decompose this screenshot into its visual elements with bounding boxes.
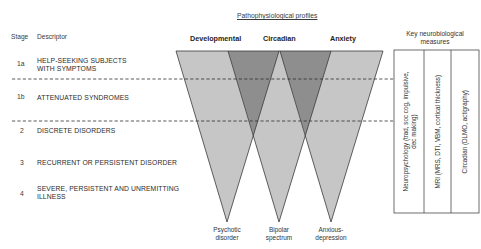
profile-developmental: Developmental	[190, 34, 241, 43]
stage-4-descriptor: SEVERE, PERSISTENT AND UNREMITTING ILLNE…	[37, 185, 179, 201]
outcome-bipolar-spectrum: Bipolar spectrum	[254, 226, 304, 242]
measure-mri: MRI (MRS, DTI, VBM, cortical thickness)	[424, 50, 451, 213]
measures-title: Key neurobiological measures	[389, 30, 481, 46]
stage-3-descriptor: RECURRENT OR PERSISTENT DISORDER	[37, 159, 177, 167]
profiles-title: Pathophysiological profiles	[237, 12, 317, 19]
profile-anxiety: Anxiety	[330, 34, 356, 43]
stage-1a-descriptor: HELP-SEEKING SUBJECTS WITH SYMPTOMS	[37, 57, 127, 73]
outcome-anxious-depression: Anxious- depression	[306, 226, 356, 242]
stage-2-descriptor: DISCRETE DISORDERS	[37, 127, 115, 135]
stage-1b-descriptor: ATTENUATED SYNDROMES	[37, 94, 129, 102]
measure-circadian: Circadian (DLMO, actigraphy)	[451, 50, 479, 213]
stage-1b-number: 1b	[17, 93, 25, 100]
profile-circadian: Circadian	[263, 34, 296, 43]
descriptor-header: Descriptor	[37, 33, 67, 40]
outcome-psychotic-disorder: Psychotic disorder	[202, 226, 252, 242]
stage-2-number: 2	[20, 127, 24, 134]
stage-header: Stage	[11, 33, 28, 40]
stage-4-number: 4	[20, 190, 24, 197]
stage-1a-number: 1a	[17, 60, 25, 67]
stage-3-number: 3	[20, 159, 24, 166]
measure-neuropsychology: Neuropsychology (trad, soc cog, impulsiv…	[394, 50, 424, 213]
